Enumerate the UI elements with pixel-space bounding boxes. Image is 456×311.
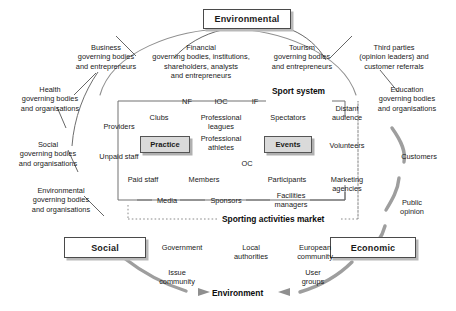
- ring-label-user-groups: User groups: [286, 268, 340, 287]
- node-label-unpaid-staff: Unpaid staff: [90, 152, 148, 161]
- ring-label-local-authorities: Local authorities: [222, 243, 280, 262]
- inner-box-events[interactable]: Events: [264, 136, 312, 153]
- ring-label-issue-community: Issue community: [146, 268, 208, 287]
- diagram-canvas: Environmental Social Economic Sport syst…: [0, 0, 456, 311]
- inner-box-label-events: Events: [276, 140, 301, 149]
- node-label-distant-audience: Distant audience: [326, 104, 368, 123]
- ring-label-social-governing: Social governing bodies and organisation…: [0, 140, 96, 168]
- section-label-sporting-market: Sporting activities market: [222, 214, 324, 224]
- ring-label-public-opinion: Public opinion: [382, 198, 442, 217]
- ring-label-customers: Customers: [386, 152, 452, 161]
- node-label-ioc: IOC: [209, 97, 233, 106]
- section-label-sport-system: Sport system: [272, 86, 325, 96]
- node-label-facilities-managers: Facilities managers: [268, 191, 314, 210]
- node-label-sponsors: Sponsors: [204, 196, 248, 205]
- node-label-clubs: Clubs: [140, 113, 178, 122]
- node-label-professional-leagues: Professional leagues: [186, 113, 256, 132]
- node-label-nf: NF: [176, 97, 198, 106]
- ring-label-health: Health governing bodies and organisation…: [4, 85, 96, 113]
- corner-node-social[interactable]: Social: [64, 237, 146, 258]
- node-label-marketing-agencies: Marketing agencies: [322, 175, 372, 194]
- node-label-media: Media: [152, 196, 182, 205]
- node-label-providers: Providers: [92, 122, 146, 131]
- inner-box-label-practice: Practice: [150, 140, 180, 149]
- inner-box-practice[interactable]: Practice: [140, 136, 190, 153]
- node-label-members: Members: [178, 175, 230, 184]
- node-label-participants: Participants: [256, 175, 318, 184]
- node-label-volunteers: Volunteers: [322, 141, 372, 150]
- ring-label-financial: Financial governing bodies, institutions…: [133, 43, 269, 81]
- node-label-paid-staff: Paid staff: [118, 175, 168, 184]
- node-label-professional-athletes: Professional athletes: [188, 134, 254, 153]
- ring-label-education: Education governing bodies and organisat…: [360, 85, 454, 113]
- corner-label-economic: Economic: [351, 243, 396, 253]
- ring-label-tourism: Tourism governing bodies and entrepreneu…: [258, 43, 346, 71]
- ring-label-european-community: European community: [282, 243, 348, 262]
- corner-node-environmental[interactable]: Environmental: [203, 9, 291, 29]
- ring-label-government: Government: [148, 243, 216, 252]
- ring-label-third-parties: Third parties (opinion leaders) and cust…: [339, 43, 449, 71]
- corner-label-social: Social: [91, 243, 119, 253]
- node-label-oc: OC: [236, 159, 258, 168]
- ring-label-environmental-governing: Environmental governing bodies and organ…: [11, 186, 111, 214]
- node-label-if: IF: [245, 97, 265, 106]
- node-label-spectators: Spectators: [258, 113, 318, 122]
- corner-label-environmental: Environmental: [214, 14, 279, 24]
- section-label-environment: Environment: [212, 288, 263, 298]
